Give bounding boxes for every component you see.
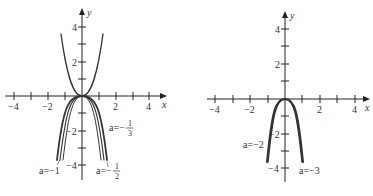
right-x-axis-label: x — [364, 102, 370, 113]
right-x-tick-label: 4 — [352, 104, 357, 115]
left-y-arrow-icon — [79, 8, 85, 15]
label-a-neg-one: a=−1 — [39, 160, 60, 176]
left-x-axis-label: x — [161, 99, 167, 110]
right-y-tick-label: 4 — [275, 24, 280, 35]
figure-canvas: −4 −2 2 4 4 2 −2 −4 x y a=− 1 3 a=− 1 2 — [0, 0, 373, 196]
left-x-tick-label: −4 — [8, 101, 19, 112]
left-y-tick-label: 2 — [72, 57, 77, 68]
right-x-tick-label: 2 — [317, 104, 322, 115]
svg-text:a=−: a=− — [109, 122, 125, 133]
left-x-tick-label: 4 — [146, 101, 151, 112]
left-y-axis-label: y — [86, 7, 92, 18]
label-a-neg-half: a=− 1 2 — [96, 162, 120, 181]
svg-text:1: 1 — [115, 162, 119, 171]
right-y-arrow-icon — [282, 11, 288, 18]
svg-text:a=−1: a=−1 — [39, 165, 60, 176]
svg-text:3: 3 — [128, 129, 132, 138]
label-a-neg-three: a=−3 — [299, 165, 320, 176]
right-graph: −4 −2 2 4 4 2 −2 −4 x y a=−2 a=−3 — [207, 10, 370, 182]
right-y-tick-label: −4 — [268, 163, 279, 174]
svg-text:1: 1 — [128, 119, 132, 128]
left-graph: −4 −2 2 4 4 2 −2 −4 x y a=− 1 3 a=− 1 2 — [5, 7, 167, 181]
left-x-tick-label: 2 — [113, 101, 118, 112]
right-x-tick-label: −4 — [209, 104, 220, 115]
svg-text:a=−: a=− — [96, 165, 112, 176]
label-a-neg-third: a=− 1 3 — [109, 119, 133, 138]
left-y-tick-label: 4 — [72, 22, 77, 33]
right-y-tick-label: 2 — [275, 59, 280, 70]
left-y-tick-label: −4 — [66, 160, 77, 171]
label-a-neg-two: a=−2 — [243, 139, 264, 150]
right-y-axis-label: y — [289, 10, 295, 21]
right-x-tick-label: −2 — [244, 104, 255, 115]
svg-text:2: 2 — [115, 172, 119, 181]
left-x-tick-label: −2 — [42, 101, 53, 112]
